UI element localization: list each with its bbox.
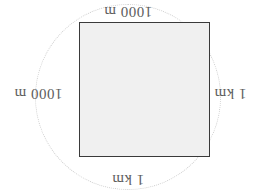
side-label-top: 1000 m: [0, 4, 256, 19]
side-label-left: 1000 m: [14, 86, 62, 101]
side-label-right: 1 km: [214, 86, 246, 101]
side-label-bottom: 1 km: [0, 172, 256, 187]
diagram-canvas: 1000 m 1 km 1 km 1000 m: [0, 0, 256, 193]
square-shape: [79, 22, 210, 157]
